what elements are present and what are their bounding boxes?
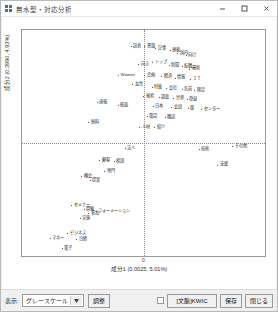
display-mode-label: 表示:: [5, 296, 19, 305]
data-point-label[interactable]: 版: [190, 106, 194, 110]
data-point-label[interactable]: 世界: [176, 96, 184, 100]
close-button[interactable]: [255, 1, 277, 16]
title-bar: 無水型・対応分析: [1, 1, 277, 17]
data-point-label[interactable]: ＩＴ: [193, 76, 201, 80]
data-point-label[interactable]: 人材: [142, 125, 150, 129]
kwic-button[interactable]: [文脈]KWIC: [167, 294, 217, 308]
data-point-label[interactable]: 顧客: [102, 158, 110, 162]
data-point-label[interactable]: 紹介: [157, 125, 165, 129]
data-point-label[interactable]: 情報: [177, 75, 185, 79]
data-point-label[interactable]: 日本: [155, 104, 163, 108]
app-grid-icon: [5, 5, 13, 13]
data-point-label[interactable]: 書籍: [147, 44, 155, 48]
y-axis-label: 成分2 (0.3996, 4.93%): [3, 13, 11, 113]
data-point-label[interactable]: 相談: [116, 159, 124, 163]
data-point-label[interactable]: 検索: [146, 93, 154, 97]
data-point-label[interactable]: 法人: [127, 145, 135, 149]
data-point-label[interactable]: 速報: [99, 100, 107, 104]
data-point-label[interactable]: 日経: [79, 237, 87, 241]
data-point-label[interactable]: 会員: [174, 105, 182, 109]
data-point-label[interactable]: 購読: [167, 115, 175, 119]
colormap-select[interactable]: グレースケール: [22, 294, 84, 307]
close-dialog-button[interactable]: 閉じる: [245, 294, 273, 308]
data-point-label[interactable]: トップ: [155, 60, 167, 64]
data-point-label[interactable]: 機会: [84, 174, 92, 178]
data-point-label[interactable]: 提案: [92, 178, 100, 182]
data-point-label[interactable]: 登録: [189, 97, 197, 101]
data-point-label[interactable]: 最新: [192, 66, 200, 70]
window-title: 無水型・対応分析: [16, 4, 211, 14]
data-point-label[interactable]: 女性: [135, 82, 143, 86]
data-point-label[interactable]: 実施: [82, 215, 90, 219]
plot-area[interactable]: 読者書籍記事連載国内向けトップ向き新聞転職最新Women企画経済情報ＩＴ女性特集…: [21, 29, 266, 257]
data-point-label[interactable]: 電子: [64, 246, 72, 250]
data-point-label[interactable]: フォーメーション: [98, 209, 130, 213]
x-axis-origin-tick: 0: [142, 257, 145, 263]
minimize-button[interactable]: [211, 1, 233, 16]
data-point-label[interactable]: 新聞: [171, 63, 179, 67]
colormap-select-value: グレースケール: [26, 296, 68, 305]
data-point-label[interactable]: 企画: [147, 73, 155, 77]
data-point-label[interactable]: 経済: [164, 74, 172, 78]
data-point-label[interactable]: ビジネス: [70, 231, 86, 235]
data-point-label[interactable]: 無料: [91, 119, 99, 123]
data-point-label[interactable]: 電話: [149, 114, 157, 118]
kwic-checkbox-wrap[interactable]: [157, 297, 164, 304]
data-point-label[interactable]: マネー: [52, 236, 64, 240]
data-point-label[interactable]: 記事: [158, 46, 166, 50]
data-point-label[interactable]: 名前: [184, 87, 192, 91]
x-axis-label: 成分1 (0.0025, 5.01%): [2, 265, 276, 273]
data-point-label[interactable]: 特集: [154, 84, 162, 88]
save-button[interactable]: 保存: [220, 294, 242, 308]
data-point-label[interactable]: 支援: [220, 162, 228, 166]
data-point-label[interactable]: 紙面: [120, 102, 128, 106]
data-point-label[interactable]: センター: [204, 107, 220, 111]
data-point-label[interactable]: 向き: [141, 62, 149, 66]
data-point-label[interactable]: 読者: [133, 44, 141, 48]
data-point-label[interactable]: 向け: [188, 53, 196, 57]
data-point-label[interactable]: 技術: [201, 147, 209, 151]
kwic-checkbox[interactable]: [157, 297, 164, 304]
data-point-label[interactable]: Women: [121, 73, 135, 77]
chevron-down-icon[interactable]: [70, 296, 82, 305]
data-point-label[interactable]: その他: [235, 144, 247, 148]
horizontal-axis-line: [22, 143, 265, 144]
data-point-label[interactable]: 会社: [169, 86, 177, 90]
correspondence-analysis-window: 無水型・対応分析 成分2 (0.3996, 4.93%) 読者書籍記事連載国内向…: [0, 0, 278, 312]
bottom-toolbar: 表示: グレースケール 調整 [文脈]KWIC 保存 閉じる: [1, 289, 277, 311]
data-point-label[interactable]: 調査: [161, 95, 169, 99]
scatter-plot-panel: 成分2 (0.3996, 4.93%) 読者書籍記事連載国内向けトップ向き新聞転…: [2, 17, 276, 289]
data-point-label[interactable]: 専門: [107, 169, 115, 173]
adjust-button[interactable]: 調整: [88, 294, 110, 308]
data-point-label[interactable]: 限定: [197, 88, 205, 92]
maximize-button[interactable]: [233, 1, 255, 16]
